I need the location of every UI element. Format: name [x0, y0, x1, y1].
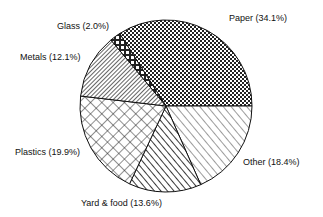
- pie-chart: [0, 0, 323, 217]
- label-metals: Metals (12.1%): [20, 52, 81, 62]
- label-plastics: Plastics (19.9%): [15, 147, 80, 157]
- label-other: Other (18.4%): [243, 157, 300, 167]
- pie-slices: [80, 20, 252, 192]
- label-yard-food: Yard & food (13.6%): [81, 198, 162, 208]
- label-glass: Glass (2.0%): [57, 21, 109, 31]
- label-paper: Paper (34.1%): [229, 13, 287, 23]
